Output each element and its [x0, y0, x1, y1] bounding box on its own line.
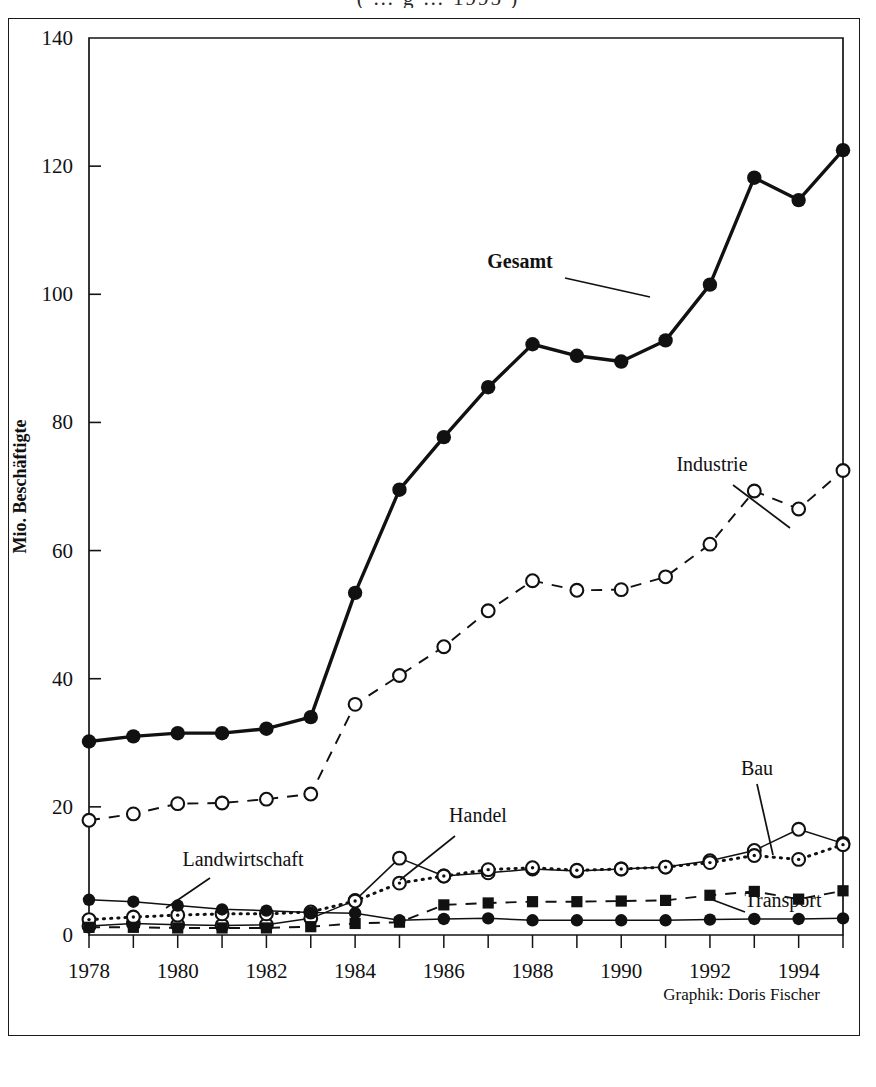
leader-line: [713, 900, 745, 912]
series-line: [89, 150, 843, 741]
y-tick-label: 0: [63, 923, 74, 947]
data-point-center: [486, 868, 489, 871]
data-point: [83, 894, 95, 906]
data-point: [438, 913, 450, 925]
data-point-center: [442, 874, 445, 877]
data-point: [704, 913, 716, 925]
data-point: [438, 899, 449, 910]
x-tick-label: 1988: [512, 959, 554, 983]
data-point: [261, 922, 272, 933]
data-point: [304, 788, 317, 801]
x-tick-label: 1982: [245, 959, 287, 983]
y-tick-label: 60: [52, 539, 73, 563]
y-tick-label: 80: [52, 410, 73, 434]
data-point: [172, 899, 184, 911]
data-point: [172, 922, 183, 933]
data-point: [392, 483, 406, 497]
series-line: [89, 900, 843, 921]
annotation-label-transport: Transport: [744, 889, 821, 912]
data-point: [126, 729, 140, 743]
data-point: [83, 922, 94, 933]
series-gesamt: [82, 143, 850, 749]
data-point: [704, 890, 715, 901]
y-tick-label: 120: [42, 154, 74, 178]
data-point: [616, 895, 627, 906]
leader-line: [565, 278, 650, 297]
data-point-center: [664, 865, 667, 868]
data-point: [83, 814, 96, 827]
data-point: [304, 710, 318, 724]
data-point: [350, 918, 361, 929]
annotation-label-industrie: Industrie: [676, 453, 747, 475]
x-tick-label: 1978: [68, 959, 110, 983]
data-point: [348, 586, 362, 600]
data-point-center: [708, 861, 711, 864]
data-point: [837, 464, 850, 477]
data-point-center: [87, 918, 90, 921]
data-point-center: [398, 881, 401, 884]
data-point: [437, 640, 450, 653]
series-line: [89, 470, 843, 820]
data-point: [483, 897, 494, 908]
data-point: [615, 914, 627, 926]
chart-page: ( … g … 1995 ) 020406080100120140Mio. Be…: [0, 0, 876, 1087]
series-line: [89, 829, 843, 926]
data-point: [349, 907, 361, 919]
data-point: [215, 726, 229, 740]
data-point-center: [531, 866, 534, 869]
annotation-label-gesamt: Gesamt: [487, 250, 553, 272]
data-point: [615, 583, 628, 596]
data-point: [792, 503, 805, 516]
data-point: [748, 913, 760, 925]
data-point: [349, 698, 362, 711]
data-point: [659, 914, 671, 926]
data-point: [837, 912, 849, 924]
data-point: [482, 604, 495, 617]
series-transport: [83, 885, 848, 933]
data-point-center: [353, 899, 356, 902]
annotation-label-bau: Bau: [741, 757, 773, 779]
data-point: [393, 669, 406, 682]
data-point: [482, 912, 494, 924]
leader-line: [166, 878, 210, 908]
data-point-center: [620, 867, 623, 870]
x-tick-label: 1980: [157, 959, 199, 983]
leader-line: [757, 784, 773, 855]
annotation-transport: Transport: [713, 889, 822, 912]
y-tick-label: 20: [52, 795, 73, 819]
data-point: [747, 170, 761, 184]
x-tick-label: 1986: [423, 959, 465, 983]
data-point: [703, 277, 717, 291]
chart-plot-area: 020406080100120140Mio. Beschäftigte19781…: [0, 0, 876, 1087]
data-point-center: [132, 915, 135, 918]
series-landwirtschaft: [83, 894, 849, 927]
series-line: [89, 891, 843, 928]
data-point: [792, 913, 804, 925]
data-point: [525, 337, 539, 351]
data-point: [571, 896, 582, 907]
data-point: [171, 797, 184, 810]
y-axis-title: Mio. Beschäftigte: [10, 420, 30, 554]
data-point: [305, 921, 316, 932]
data-point-center: [753, 854, 756, 857]
series-industrie: [83, 464, 850, 827]
data-point: [393, 852, 406, 865]
data-point: [128, 922, 139, 933]
data-point: [526, 574, 539, 587]
data-point: [704, 538, 717, 551]
data-point: [305, 906, 317, 918]
data-point-center: [575, 869, 578, 872]
data-point: [82, 734, 96, 748]
x-tick-label: 1992: [689, 959, 731, 983]
data-point-center: [176, 913, 179, 916]
plot-border: [89, 38, 843, 935]
x-tick-label: 1994: [778, 959, 821, 983]
data-point: [259, 721, 273, 735]
annotation-label-handel: Handel: [449, 804, 507, 826]
data-point: [127, 895, 139, 907]
x-tick-label: 1990: [600, 959, 642, 983]
data-point: [837, 885, 848, 896]
y-tick-label: 40: [52, 667, 73, 691]
data-point: [614, 354, 628, 368]
data-point-center: [797, 858, 800, 861]
